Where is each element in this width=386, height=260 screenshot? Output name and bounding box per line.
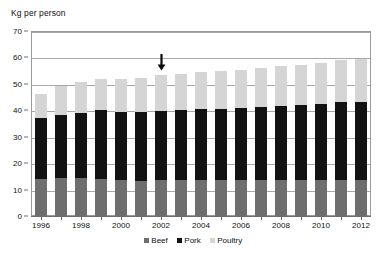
bar-segment-poultry [295,65,307,105]
x-tick-mark [221,216,222,220]
bar-group [295,31,307,216]
bar-segment-pork [35,118,47,179]
x-tick-mark [141,216,142,220]
bar-group [355,31,367,216]
x-tick-label-2004: 2004 [192,221,210,230]
legend-swatch-beef [144,238,149,243]
y-tick-label-60: 60 [13,53,22,62]
bar-segment-beef [135,181,147,216]
bar-segment-beef [115,180,127,216]
bar-segment-poultry [155,75,167,111]
bar-group [215,31,227,216]
x-tick-mark [261,216,262,220]
bar-segment-pork [335,102,347,179]
bar-segment-poultry [195,72,207,109]
y-axis-tick-labels: 010203040506070 [5,31,28,216]
y-axis-title: Kg per person [11,8,66,18]
x-tick-mark [341,216,342,220]
legend-item-beef[interactable]: Beef [144,236,168,245]
bar-segment-pork [235,108,247,180]
x-tick-label-1996: 1996 [32,221,50,230]
bar-segment-beef [195,180,207,216]
bar-group [35,31,47,216]
bar-segment-pork [315,104,327,180]
bar-segment-pork [135,112,147,180]
bar-segment-beef [215,180,227,216]
y-tick-label-30: 30 [13,132,22,141]
bar-group [315,31,327,216]
x-tick-mark [301,216,302,220]
bar-segment-poultry [255,68,267,107]
chart-legend: BeefPorkPoultry [0,236,386,245]
y-tick-label-20: 20 [13,159,22,168]
bar-segment-pork [95,110,107,179]
legend-swatch-pork [177,238,182,243]
legend-swatch-poultry [210,238,215,243]
bar-segment-poultry [355,59,367,102]
bar-segment-pork [155,111,167,181]
bar-group [55,31,67,216]
x-tick-mark [201,216,202,220]
bar-segment-poultry [315,63,327,104]
bar-segment-beef [55,178,67,216]
bar-segment-beef [255,180,267,216]
y-tick-mark-40 [24,110,28,111]
bar-segment-pork [215,109,227,180]
bar-segment-beef [235,180,247,216]
bar-segment-pork [195,109,207,180]
bar-segment-beef [335,180,347,216]
bar-segment-pork [115,112,127,180]
bar-segment-pork [355,102,367,180]
x-tick-mark [61,216,62,220]
bar-group [75,31,87,216]
x-tick-mark [121,216,122,220]
x-tick-label-2002: 2002 [152,221,170,230]
bar-group [175,31,187,216]
x-tick-mark [81,216,82,220]
down-arrow-icon [157,54,166,71]
y-tick-label-0: 0 [18,212,22,221]
bar-segment-beef [95,179,107,216]
y-tick-mark-20 [24,163,28,164]
bar-segment-beef [75,178,87,216]
x-tick-mark [281,216,282,220]
bar-segment-poultry [215,71,227,109]
x-tick-label-2006: 2006 [232,221,250,230]
legend-item-pork[interactable]: Pork [177,236,201,245]
stacked-bar-chart: Kg per person 010203040506070 1996199820… [0,0,386,260]
bar-segment-beef [355,180,367,216]
bar-segment-beef [175,180,187,216]
bar-segment-beef [275,180,287,216]
bar-segment-pork [175,110,187,180]
y-tick-mark-50 [24,83,28,84]
bar-segment-poultry [95,79,107,111]
bar-segment-beef [155,180,167,216]
bar-segment-poultry [275,66,287,106]
bar-segment-pork [75,113,87,179]
x-tick-mark [181,216,182,220]
bar-segment-poultry [115,79,127,112]
y-tick-mark-0 [24,216,28,217]
x-tick-mark [361,216,362,220]
y-tick-mark-70 [24,31,28,32]
x-tick-label-2000: 2000 [112,221,130,230]
bar-group [95,31,107,216]
bar-segment-poultry [135,78,147,112]
legend-label-beef: Beef [151,236,167,245]
bar-series-layer [31,31,371,216]
legend-item-poultry[interactable]: Poultry [210,236,242,245]
bar-segment-beef [295,180,307,216]
bar-group [195,31,207,216]
x-tick-label-2008: 2008 [272,221,290,230]
bar-group [275,31,287,216]
x-tick-mark [321,216,322,220]
bar-segment-beef [35,179,47,216]
bar-group [235,31,247,216]
bar-segment-poultry [235,70,247,109]
legend-label-pork: Pork [184,236,200,245]
legend-label-poultry: Poultry [217,236,242,245]
bar-segment-poultry [335,60,347,102]
bar-group [135,31,147,216]
x-tick-label-2012: 2012 [352,221,370,230]
bar-group [335,31,347,216]
